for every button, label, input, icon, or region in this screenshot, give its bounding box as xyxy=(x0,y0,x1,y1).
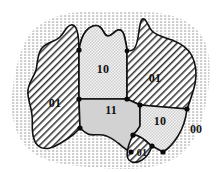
label-new-south-wales: 10 xyxy=(154,114,166,128)
vertex-dot xyxy=(130,132,135,137)
label-ocean: 00 xyxy=(190,122,202,136)
vertex-dot xyxy=(76,47,81,52)
vertex-dot xyxy=(128,149,133,154)
vertex-dot xyxy=(76,96,81,101)
australia-map-svg: 01 10 01 11 10 01 00 xyxy=(0,0,220,173)
vertex-dot xyxy=(124,96,129,101)
vertex-dot xyxy=(160,149,165,154)
label-queensland: 01 xyxy=(149,71,161,85)
label-victoria: 01 xyxy=(137,147,147,158)
label-south-australia: 11 xyxy=(105,103,117,117)
vertex-dot xyxy=(149,143,154,148)
vertex-dot xyxy=(77,125,82,130)
australia-map-figure: 01 10 01 11 10 01 00 xyxy=(0,0,220,173)
vertex-dot xyxy=(184,106,189,111)
vertex-dot xyxy=(125,49,130,54)
vertex-dot xyxy=(137,102,142,107)
label-northern-territory: 10 xyxy=(97,62,109,76)
label-western-australia: 01 xyxy=(49,96,61,110)
